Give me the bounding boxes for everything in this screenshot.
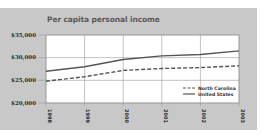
y-axis: $20,000$25,000$30,000$35,000 bbox=[11, 32, 36, 106]
x-tick-label: 2000 bbox=[124, 109, 130, 123]
x-tick-label: 2001 bbox=[163, 109, 169, 123]
x-tick-label: 2003 bbox=[240, 109, 246, 123]
y-tick-label: $25,000 bbox=[11, 77, 36, 83]
x-tick-label: 1999 bbox=[85, 109, 91, 123]
legend-label: North Carolina bbox=[198, 86, 236, 91]
line-chart: $20,000$25,000$30,000$35,000 19981999200… bbox=[0, 0, 267, 138]
x-tick-label: 2002 bbox=[201, 109, 207, 123]
y-tick-label: $30,000 bbox=[11, 54, 36, 60]
x-tick-label: 1998 bbox=[47, 109, 53, 123]
y-tick-label: $20,000 bbox=[11, 100, 36, 106]
y-tick-label: $35,000 bbox=[11, 32, 36, 38]
x-axis: 199819992000200120022003 bbox=[47, 109, 246, 123]
legend-label: United States bbox=[198, 92, 234, 97]
